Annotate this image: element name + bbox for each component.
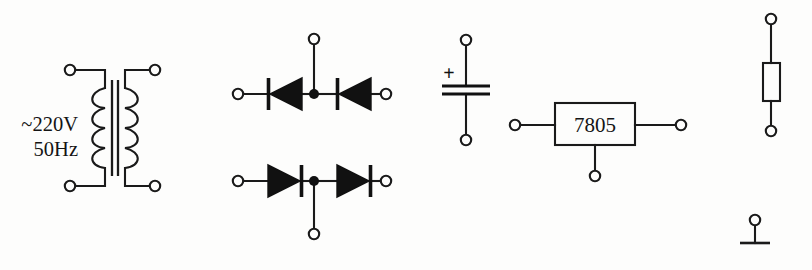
top-diode-pair: [233, 34, 391, 110]
terminal-primary-top[interactable]: [65, 65, 75, 75]
voltage-regulator: 7805: [510, 103, 686, 181]
terminal-bottom-tap[interactable]: [309, 229, 319, 239]
regulator-label: 7805: [574, 113, 616, 137]
resistor-body: [763, 63, 780, 101]
bottom-diode-2-triangle: [337, 165, 369, 197]
terminal-resistor-top[interactable]: [766, 14, 776, 24]
terminal-ground[interactable]: [750, 215, 760, 225]
load-resistor: [763, 14, 780, 136]
terminal-secondary-top[interactable]: [150, 65, 160, 75]
terminal-resistor-bottom[interactable]: [766, 126, 776, 136]
terminal-regulator-output[interactable]: [676, 120, 686, 130]
terminal-bottom-left[interactable]: [233, 176, 243, 186]
terminal-secondary-bottom[interactable]: [150, 181, 160, 191]
bottom-diode-1-triangle: [268, 165, 300, 197]
terminal-regulator-ground[interactable]: [590, 171, 600, 181]
secondary-winding: [125, 88, 138, 168]
terminal-top-right[interactable]: [381, 89, 391, 99]
terminal-capacitor-top[interactable]: [461, 35, 471, 45]
terminal-bottom-right[interactable]: [381, 176, 391, 186]
source-voltage-label: ~220V: [21, 113, 78, 135]
top-junction-dot: [309, 89, 319, 99]
primary-winding: [92, 88, 105, 168]
schematic-svg: ~220V 50Hz: [0, 0, 812, 270]
capacitor-polarity-icon: +: [443, 62, 454, 84]
terminal-top-tap[interactable]: [309, 34, 319, 44]
terminal-regulator-input[interactable]: [510, 120, 520, 130]
top-diode-2-triangle: [339, 78, 371, 110]
bottom-diode-pair: [233, 165, 391, 239]
source-frequency-label: 50Hz: [34, 138, 78, 160]
terminal-primary-bottom[interactable]: [65, 181, 75, 191]
smoothing-capacitor: +: [442, 35, 490, 145]
ground-symbol: [740, 215, 770, 243]
terminal-top-left[interactable]: [233, 89, 243, 99]
bottom-junction-dot: [309, 176, 319, 186]
top-diode-1-triangle: [270, 78, 302, 110]
circuit-diagram-canvas: ~220V 50Hz: [0, 0, 812, 270]
mains-transformer: ~220V 50Hz: [21, 65, 160, 191]
terminal-capacitor-bottom[interactable]: [461, 135, 471, 145]
